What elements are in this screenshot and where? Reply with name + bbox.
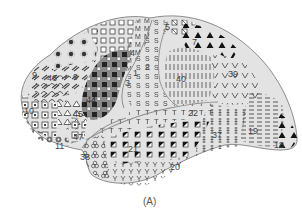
label-9b: 9 [73, 72, 78, 82]
label-39: 39 [228, 69, 238, 79]
label-19: 19 [248, 126, 258, 136]
label-38: 38 [80, 152, 90, 162]
label-10: 10 [24, 106, 34, 116]
area-40 [164, 48, 215, 104]
label-1: 1 [133, 68, 138, 78]
label-7: 7 [192, 37, 197, 47]
brodmann-diagram: S M [0, 0, 302, 220]
label-20: 20 [170, 162, 180, 172]
label-44: 44 [86, 95, 96, 105]
label-21: 21 [128, 144, 138, 154]
label-3: 3 [125, 78, 130, 88]
label-46: 46 [47, 73, 57, 83]
label-40: 40 [176, 74, 186, 84]
label-47: 47 [73, 132, 83, 142]
figure-caption: (A) [143, 196, 156, 207]
label-4: 4 [130, 48, 135, 58]
label-37: 37 [212, 130, 222, 140]
label-18: 18 [274, 140, 284, 150]
label-22: 22 [188, 108, 198, 118]
label-45: 45 [73, 109, 83, 119]
label-5: 5 [165, 22, 170, 32]
label-2: 2 [145, 62, 150, 72]
label-11: 11 [55, 141, 64, 151]
label-9: 9 [32, 70, 37, 80]
